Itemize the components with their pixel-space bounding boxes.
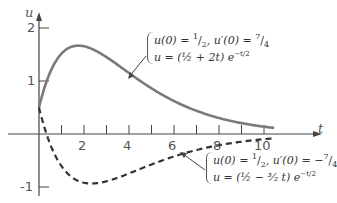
anno-text: u(0) = bbox=[213, 154, 252, 167]
anno-formula: u = (½ + 2t) e bbox=[154, 51, 234, 64]
y-axis-label: u bbox=[25, 6, 33, 19]
frac-num: 1 bbox=[252, 152, 257, 161]
y-tick-label: 1 bbox=[27, 74, 35, 87]
anno-exponent: −t/2 bbox=[234, 50, 250, 58]
y-axis-arrow-icon bbox=[36, 12, 42, 21]
bottom-leader-line bbox=[183, 154, 205, 170]
x-ticks bbox=[62, 125, 265, 134]
frac-den: 4 bbox=[332, 160, 337, 169]
x-axis-label: t bbox=[318, 122, 323, 135]
x-tick-label: 10 bbox=[254, 139, 271, 152]
y-tick-label: 2 bbox=[27, 21, 35, 34]
frac-den: 4 bbox=[264, 40, 269, 49]
x-tick-label: 4 bbox=[123, 139, 131, 152]
top-curve-annotation: u(0) = 1/2, u′(0) = 7/4 u = (½ + 2t) e−t… bbox=[147, 32, 269, 64]
brace-icon bbox=[147, 32, 153, 64]
frac-num: 7 bbox=[323, 152, 328, 161]
anno-formula: u = (½ − ³⁄₂ t) e bbox=[213, 171, 300, 184]
brace-icon bbox=[206, 152, 212, 184]
anno-text: , u′(0) = − bbox=[266, 154, 324, 167]
frac-num: 7 bbox=[255, 32, 260, 41]
x-tick-label: 8 bbox=[213, 139, 221, 152]
anno-exponent: −t/2 bbox=[300, 170, 316, 178]
anno-text: , u′(0) = bbox=[207, 34, 255, 47]
x-tick-label: 2 bbox=[78, 139, 86, 152]
y-ticks bbox=[39, 28, 49, 187]
y-tick-label: -1 bbox=[20, 180, 33, 193]
frac-num: 1 bbox=[193, 32, 198, 41]
bottom-curve-annotation: u(0) = 1/2, u′(0) = −7/4 u = (½ − ³⁄₂ t)… bbox=[206, 152, 337, 184]
x-tick-label: 6 bbox=[168, 139, 176, 152]
anno-text: u(0) = bbox=[154, 34, 193, 47]
